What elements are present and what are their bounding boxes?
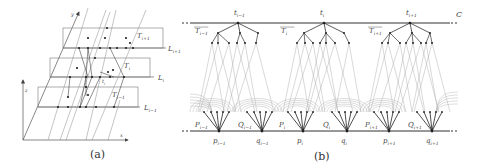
- fan-tip: [259, 111, 261, 113]
- caption-b: (b): [314, 150, 330, 163]
- point: [99, 76, 101, 78]
- fan-tip: [294, 111, 296, 113]
- tree-edge: [304, 23, 324, 33]
- fan-tip: [386, 111, 388, 113]
- tree-edge: [412, 33, 413, 43]
- edge-line: [335, 43, 353, 112]
- y-axis-label: y: [70, 11, 74, 18]
- inner-point-label: ti: [102, 78, 105, 86]
- tree-leaf: [296, 42, 298, 44]
- tree-leaf: [236, 42, 238, 44]
- fan-tip: [429, 111, 431, 113]
- fan-edge: [432, 112, 442, 131]
- point: [116, 47, 118, 49]
- fan-tip: [398, 111, 400, 113]
- slanted-line: [92, 10, 146, 140]
- point: [109, 76, 111, 78]
- point: [67, 106, 69, 108]
- top-point-label-1: ti: [320, 9, 325, 18]
- fan-tip: [306, 111, 308, 113]
- fan-edge: [262, 112, 266, 131]
- edge-line: [305, 43, 323, 112]
- bottom-point-label-4: pi+1: [383, 137, 396, 146]
- tree-edge: [426, 33, 430, 43]
- edge-line: [291, 43, 313, 112]
- edge-line: [412, 43, 426, 112]
- fan-tip: [331, 111, 333, 113]
- layer-region-label-2: Ti−1: [112, 91, 125, 100]
- tree-1: [296, 22, 350, 44]
- point: [87, 37, 89, 39]
- fan-tip: [380, 111, 382, 113]
- tree-edge: [390, 33, 400, 43]
- tree-leaf: [405, 42, 407, 44]
- tree-edge: [324, 23, 344, 33]
- point: [113, 106, 115, 108]
- y-axis: [23, 12, 79, 140]
- layer-region-label-1: Ti: [124, 62, 131, 71]
- tree-leaf: [244, 42, 246, 44]
- point: [78, 47, 80, 49]
- tree-edge: [324, 23, 326, 33]
- tree-leaf: [425, 42, 427, 44]
- tree-edge: [237, 33, 240, 43]
- tree-label-0: Ti−1: [195, 27, 208, 36]
- fan-tip: [423, 111, 425, 113]
- set-label-3: Qi: [323, 121, 331, 130]
- fan-edge: [288, 112, 303, 131]
- set-label-1: Qi−1: [238, 121, 252, 130]
- point: [85, 76, 87, 78]
- edge-line: [426, 43, 438, 112]
- fan-edge: [332, 112, 347, 131]
- tree-leaf: [319, 42, 321, 44]
- fan-tip: [271, 111, 273, 113]
- fan-edge: [262, 112, 272, 131]
- edge-line: [198, 43, 212, 112]
- curve-c-label: C: [456, 10, 462, 19]
- tree-leaf: [399, 42, 401, 44]
- point: [76, 67, 78, 69]
- fan-tip: [287, 111, 289, 113]
- connector-line: [88, 48, 92, 77]
- tree-leaf: [312, 42, 314, 44]
- set-label-5: Qi+1: [408, 121, 422, 130]
- tree-edge: [390, 23, 410, 33]
- connector-line: [110, 48, 124, 77]
- set-label-0: Pi−1: [194, 121, 208, 130]
- layer-line-label-1: Li: [157, 74, 165, 83]
- tree-0: [211, 22, 259, 44]
- fan-tip: [344, 111, 346, 113]
- tree-leaf: [412, 42, 414, 44]
- edge-line: [368, 43, 382, 112]
- layer-line-label-0: Li+1: [167, 45, 181, 54]
- fan-tip: [338, 111, 340, 113]
- fan-tip: [246, 111, 248, 113]
- edge-line: [234, 43, 256, 112]
- bottom-point-label-5: qi+1: [426, 137, 439, 146]
- tree-edge: [238, 23, 240, 33]
- point: [104, 37, 106, 39]
- connector-line: [100, 72, 114, 77]
- point: [106, 27, 108, 29]
- edge-line: [227, 43, 245, 112]
- top-point-label-2: ti+1: [406, 9, 417, 18]
- fan-tip: [300, 111, 302, 113]
- tree-leaf: [255, 42, 257, 44]
- point: [85, 86, 87, 88]
- tree-edge: [410, 23, 430, 33]
- bottom-point-label-1: qi−1: [256, 137, 269, 146]
- incoming-arc: [436, 104, 458, 112]
- tree-leaf: [211, 42, 213, 44]
- point: [57, 106, 59, 108]
- arc: [286, 106, 308, 112]
- fan-tip: [435, 111, 437, 113]
- tree-leaf: [217, 42, 219, 44]
- point: [125, 37, 127, 39]
- tree-leaf: [325, 42, 327, 44]
- point: [69, 76, 71, 78]
- fan-tip: [416, 111, 418, 113]
- edge-line: [335, 43, 349, 112]
- fan-tip: [350, 111, 352, 113]
- tree-edge: [320, 33, 326, 43]
- tree-edge: [240, 33, 245, 43]
